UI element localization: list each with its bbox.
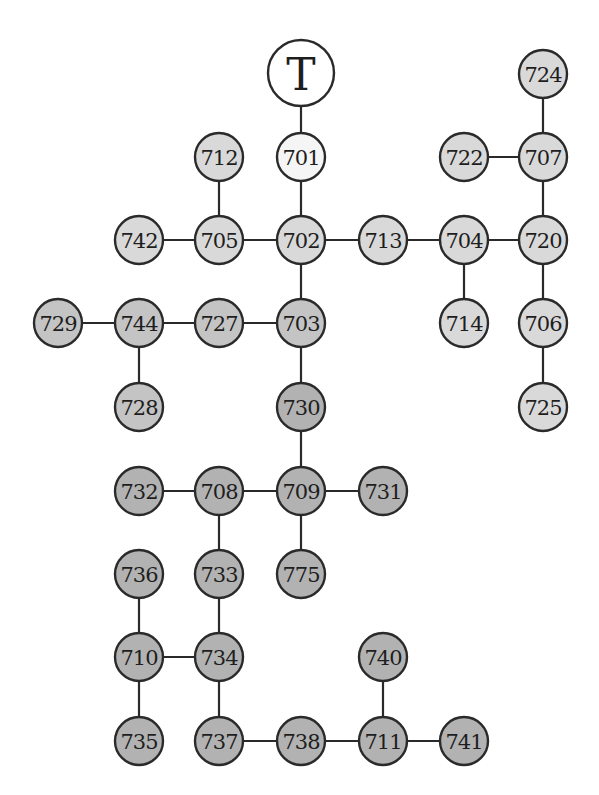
node-label: 722 — [445, 146, 482, 170]
node-label: 731 — [364, 480, 401, 504]
node-712: 712 — [195, 133, 243, 181]
node-label: 713 — [364, 229, 401, 253]
node-737: 737 — [195, 717, 243, 765]
node-740: 740 — [359, 633, 407, 681]
node-742: 742 — [115, 216, 163, 264]
node-775: 775 — [277, 550, 325, 598]
node-709: 709 — [277, 467, 325, 515]
nodes-layer: T701712722724707742705702713704720729744… — [34, 40, 567, 765]
node-730: 730 — [277, 383, 325, 431]
node-label: 735 — [120, 730, 157, 754]
node-label: 742 — [120, 229, 157, 253]
node-741: 741 — [440, 717, 488, 765]
node-label: 702 — [282, 229, 319, 253]
node-label: 730 — [282, 396, 319, 420]
node-702: 702 — [277, 216, 325, 264]
node-703: 703 — [277, 299, 325, 347]
node-725: 725 — [519, 383, 567, 431]
node-734: 734 — [195, 633, 243, 681]
node-705: 705 — [195, 216, 243, 264]
node-label: 775 — [282, 563, 319, 587]
node-701: 701 — [277, 133, 325, 181]
node-label: 736 — [120, 563, 158, 587]
node-label: 744 — [120, 312, 158, 336]
node-744: 744 — [115, 299, 163, 347]
node-label: T — [286, 49, 315, 100]
node-label: 734 — [200, 646, 238, 670]
node-label: 727 — [200, 312, 237, 336]
node-728: 728 — [115, 383, 163, 431]
node-label: 703 — [282, 312, 319, 336]
node-label: 711 — [364, 730, 401, 754]
node-label: 741 — [445, 730, 482, 754]
tree-diagram: T701712722724707742705702713704720729744… — [0, 0, 599, 795]
node-710: 710 — [115, 633, 163, 681]
node-label: 701 — [282, 146, 319, 170]
node-724: 724 — [519, 50, 567, 98]
node-label: 714 — [445, 312, 483, 336]
node-label: 704 — [445, 229, 483, 253]
node-708: 708 — [195, 467, 243, 515]
node-label: 706 — [524, 312, 562, 336]
node-label: 724 — [524, 63, 562, 87]
node-727: 727 — [195, 299, 243, 347]
node-707: 707 — [519, 133, 567, 181]
node-label: 712 — [200, 146, 237, 170]
node-713: 713 — [359, 216, 407, 264]
node-label: 710 — [120, 646, 157, 670]
node-738: 738 — [277, 717, 325, 765]
node-label: 733 — [200, 563, 237, 587]
node-736: 736 — [115, 550, 163, 598]
root-node: T — [268, 40, 334, 106]
node-label: 725 — [524, 396, 561, 420]
node-label: 729 — [39, 312, 76, 336]
node-729: 729 — [34, 299, 82, 347]
node-label: 732 — [120, 480, 157, 504]
node-label: 708 — [200, 480, 237, 504]
node-label: 728 — [120, 396, 157, 420]
node-label: 720 — [524, 229, 561, 253]
node-label: 707 — [524, 146, 561, 170]
node-704: 704 — [440, 216, 488, 264]
node-735: 735 — [115, 717, 163, 765]
node-label: 738 — [282, 730, 319, 754]
node-733: 733 — [195, 550, 243, 598]
node-722: 722 — [440, 133, 488, 181]
node-731: 731 — [359, 467, 407, 515]
node-label: 737 — [200, 730, 237, 754]
node-732: 732 — [115, 467, 163, 515]
node-720: 720 — [519, 216, 567, 264]
node-label: 740 — [364, 646, 401, 670]
node-711: 711 — [359, 717, 407, 765]
node-label: 705 — [200, 229, 237, 253]
node-label: 709 — [282, 480, 319, 504]
node-706: 706 — [519, 299, 567, 347]
node-714: 714 — [440, 299, 488, 347]
